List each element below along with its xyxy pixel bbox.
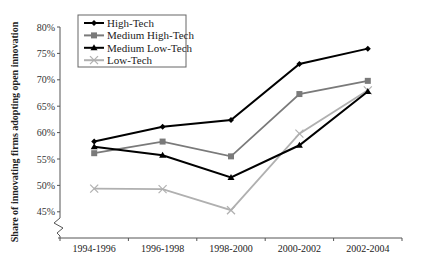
x-tick-label: 1996-1998 [141, 243, 184, 254]
y-tick-label: 50% [37, 180, 55, 191]
y-tick-label: 60% [37, 127, 55, 138]
x-axis: 1994-19961996-19981998-20002000-20022002… [58, 238, 402, 254]
legend-label: Medium High-Tech [107, 29, 194, 41]
series-lines [90, 46, 372, 215]
y-tick-label: 70% [37, 74, 55, 85]
axis-break-icon [54, 218, 63, 238]
x-tick-label: 1994-1996 [73, 243, 116, 254]
y-axis-label: Share of innovating firms adopting open … [9, 21, 20, 242]
legend-label: Low-Tech [107, 54, 153, 66]
y-tick-label: 55% [37, 154, 55, 165]
legend-label: High-Tech [107, 17, 154, 29]
x-tick-label: 2002-2004 [346, 243, 389, 254]
y-tick-label: 75% [37, 48, 55, 59]
line-chart: 45%50%55%60%65%70%75%80% 1994-19961996-1… [0, 0, 425, 273]
legend-label: Medium Low-Tech [107, 42, 193, 54]
x-tick-label: 2000-2002 [278, 243, 321, 254]
y-tick-label: 45% [37, 206, 55, 217]
x-tick-label: 1998-2000 [209, 243, 252, 254]
y-tick-label: 80% [37, 22, 55, 33]
series-low-tech [90, 86, 372, 214]
y-tick-label: 65% [37, 101, 55, 112]
y-axis: 45%50%55%60%65%70%75%80% [37, 22, 63, 239]
legend: High-TechMedium High-TechMedium Low-Tech… [78, 15, 194, 67]
